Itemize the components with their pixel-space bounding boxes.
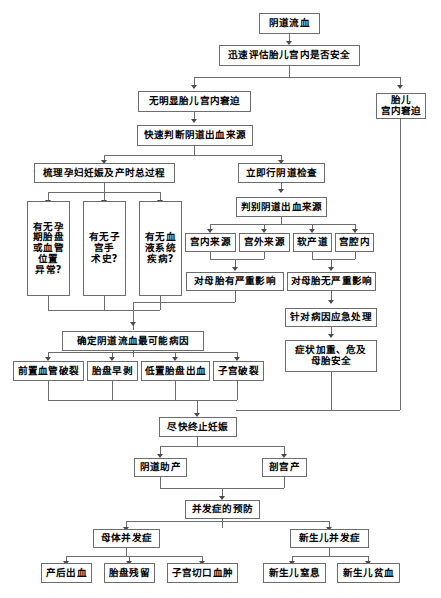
connector-assess-bus (289, 65, 290, 77)
node-maternal-complications[interactable]: 母体并发症 (93, 529, 160, 548)
node-complication-prevention[interactable]: 并发症的预防 (185, 500, 260, 519)
node-neonatal-anemia[interactable]: 新生儿贫血 (337, 563, 400, 583)
node-review-pregnancy-history[interactable]: 梳理孕妇妊娠及产时总过程 (34, 163, 175, 183)
connector-c3-down (175, 381, 176, 400)
connector-distress-down (400, 118, 401, 410)
node-question-uterine-surgery-history[interactable]: 有无子 宫手 术史? (83, 201, 126, 296)
bus-neonatal-children (292, 556, 368, 557)
node-symptoms-worsen[interactable]: 症状加重、危及 母胎安全 (285, 340, 377, 372)
connector-worsen-down (331, 372, 332, 410)
arrowhead-emergency (328, 300, 334, 304)
bus-questions-to-cause (48, 310, 160, 311)
node-cesarean-section[interactable]: 剖宫产 (262, 458, 307, 477)
flowchart-canvas: 阴道流血 迅速评估胎儿宫内是否安全 无明显胎儿宫内窘迫 胎儿 宫内窘迫 快速判断… (0, 0, 441, 598)
bus-severe-left (210, 259, 235, 260)
connector-discriminate-bus (281, 216, 282, 224)
node-question-placenta-vessel-position[interactable]: 有无孕 期胎盘 或血管 位置 异常? (27, 201, 70, 296)
bus-assess (194, 77, 401, 78)
arrowhead-nodistress (191, 85, 197, 89)
node-uterine-incision-hematoma[interactable]: 子宫切口血肿 (167, 563, 238, 583)
connector-srcsoft-down (312, 252, 313, 259)
bus-severe-right (235, 259, 264, 260)
connector-c4-down (237, 381, 238, 400)
bus-severe-to-cause (133, 302, 235, 303)
connector-vaginal-down (160, 477, 161, 488)
connector-maternal-bus (126, 548, 127, 556)
node-neonatal-complications[interactable]: 新生儿并发症 (290, 529, 369, 548)
node-question-blood-system-disease[interactable]: 有无血 液系统 疾病? (139, 201, 182, 296)
node-no-fetal-distress[interactable]: 无明显胎儿宫内窘迫 (138, 91, 251, 112)
node-cause-placental-abruption[interactable]: 胎盘早剥 (87, 361, 138, 381)
connector-judge-bus (194, 145, 195, 155)
node-no-severe-impact[interactable]: 对母胎无严重影响 (287, 272, 376, 291)
node-source-uterine-cavity[interactable]: 宫腔内 (335, 233, 374, 252)
arrowhead-severe (232, 267, 238, 271)
node-determine-most-likely-cause[interactable]: 确定阴道流血最可能病因 (62, 331, 204, 351)
arrowhead-discriminate (278, 189, 284, 193)
node-cause-vasa-previa-rupture[interactable]: 前置血管破裂 (13, 361, 84, 381)
node-cause-low-lying-placenta-bleeding[interactable]: 低置胎盘出血 (141, 361, 210, 381)
bus-delivery (160, 446, 284, 447)
node-immediate-vaginal-exam[interactable]: 立即行阴道检查 (238, 163, 325, 183)
arrowhead-judge (191, 119, 197, 123)
node-severe-impact[interactable]: 对母胎有严重影响 (186, 272, 284, 291)
connector-c1-down (48, 381, 49, 400)
node-judge-bleeding-source[interactable]: 快速判断阴道出血来源 (137, 125, 253, 146)
bus-maternal-children (66, 556, 202, 557)
node-retained-placenta[interactable]: 胎盘残留 (104, 563, 155, 583)
connector-cesarean-down (284, 477, 285, 488)
connector-c2-down (112, 381, 113, 400)
connector-neonatal-bus (329, 548, 330, 556)
connector-srccavity-down (355, 252, 356, 259)
connector-emergency-worsen (331, 327, 332, 334)
node-fetal-distress[interactable]: 胎儿 宫内窘迫 (376, 93, 426, 119)
node-start[interactable]: 阴道流血 (259, 13, 320, 34)
node-source-extrauterine[interactable]: 宫外来源 (239, 233, 290, 252)
bus-distress-terminate (236, 410, 400, 411)
bus-notsevere-right (331, 259, 355, 260)
node-neonatal-asphyxia[interactable]: 新生儿窒息 (263, 563, 326, 583)
node-assess-fetal-safety[interactable]: 迅速评估胎儿宫内是否安全 (219, 45, 360, 66)
bus-causes (48, 352, 237, 353)
bus-sources (210, 224, 355, 225)
connector-srcintra-down (210, 252, 211, 259)
arrowhead-distress (397, 85, 403, 89)
connector-terminate-bus (197, 437, 198, 446)
node-etiology-emergency-treatment[interactable]: 针对病因应急处理 (285, 308, 377, 327)
connector-terminate-in (197, 400, 198, 414)
connector-history-bus (104, 183, 105, 192)
connector-q1-down (48, 296, 49, 310)
connector-q2-down (104, 296, 105, 310)
node-source-soft-birth-canal[interactable]: 软产道 (293, 233, 332, 252)
bus-judge (104, 155, 282, 156)
bus-causes-terminate (48, 400, 237, 401)
bus-notsevere-left (312, 259, 331, 260)
node-terminate-pregnancy[interactable]: 尽快终止妊娠 (159, 417, 237, 437)
node-postpartum-hemorrhage[interactable]: 产后出血 (41, 563, 92, 583)
arrowhead-notsevere (328, 267, 334, 271)
connector-q3-down (160, 296, 161, 310)
connector-severe-down (235, 290, 236, 302)
node-discriminate-bleeding-source[interactable]: 判别阴道出血来源 (236, 197, 327, 217)
node-source-intrauterine[interactable]: 宫内来源 (185, 233, 236, 252)
bus-complications (126, 521, 329, 522)
arrowhead-worsen (328, 334, 334, 338)
arrowhead-cause (130, 322, 136, 326)
connector-srcextra-down (264, 252, 265, 259)
node-cause-uterine-rupture[interactable]: 子宫破裂 (213, 361, 264, 381)
node-assisted-vaginal-delivery[interactable]: 阴道助产 (134, 458, 187, 477)
